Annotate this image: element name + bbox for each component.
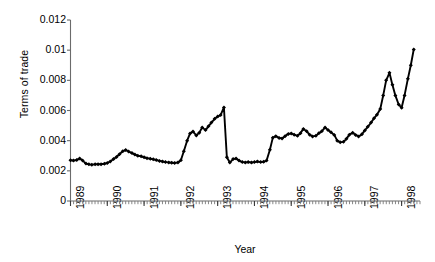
data-point-marker [154,158,158,162]
chart-figure: Terms of trade Year 00.0020.0040.0060.00… [0,0,435,262]
data-point-marker [403,93,407,97]
data-point-marker [390,83,394,87]
data-point-marker [160,159,164,163]
data-point-marker [102,162,106,166]
data-point-marker [163,160,167,164]
data-point-marker [173,161,177,165]
data-series-markers [69,47,416,166]
x-axis-ticks [71,201,421,206]
data-point-marker [71,159,75,163]
data-point-marker [409,63,413,67]
data-point-marker [151,157,155,161]
data-point-marker [412,47,416,51]
data-point-marker [381,93,385,97]
data-point-marker [252,160,256,164]
data-point-marker [90,163,94,167]
data-series-line [71,49,414,164]
data-point-marker [148,157,152,161]
plot-area [0,0,435,262]
axis-lines [71,20,421,201]
data-point-marker [246,160,250,164]
data-point-marker [158,159,162,163]
data-point-marker [406,77,410,81]
data-point-marker [99,162,103,166]
data-point-marker [255,159,259,163]
